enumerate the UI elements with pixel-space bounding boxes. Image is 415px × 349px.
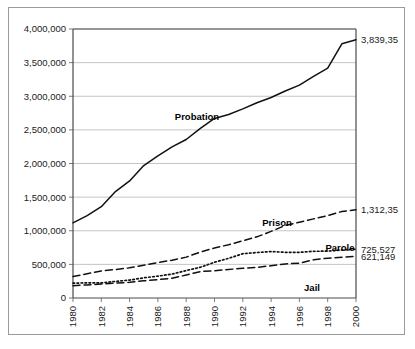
- y-axis-tick-label: 500,000: [32, 259, 66, 270]
- line-chart-svg: 0500,0001,000,0001,500,0002,000,0002,500…: [9, 8, 406, 336]
- x-axis-tick-label: 1996: [294, 306, 305, 327]
- y-axis-tick-label: 1,000,000: [24, 225, 66, 236]
- x-axis-tick-label: 1980: [67, 306, 78, 327]
- series-line-probation: [73, 40, 356, 223]
- x-axis-tick-label: 1984: [124, 306, 135, 327]
- series-line-prison: [73, 210, 356, 277]
- y-axis-tick-label: 2,500,000: [24, 124, 66, 135]
- series-end-value-prison: 1,312,35: [361, 204, 398, 215]
- y-axis-tick-label: 4,000,000: [24, 23, 66, 34]
- series-label-parole: Parole: [325, 242, 354, 253]
- series-label-probation: Probation: [175, 111, 220, 122]
- x-axis-tick-label: 1982: [96, 306, 107, 327]
- x-axis-tick-label: 2000: [350, 306, 361, 327]
- x-axis-tick-label: 1992: [237, 306, 248, 327]
- series-end-value-probation: 3,839,35: [361, 34, 398, 45]
- y-axis-tick-label: 3,000,000: [24, 91, 66, 102]
- y-axis-tick-label: 1,500,000: [24, 192, 66, 203]
- y-axis-tick-label: 0: [61, 292, 66, 303]
- x-axis-tick-label: 1994: [266, 306, 277, 327]
- chart-plot-area: 0500,0001,000,0001,500,0002,000,0002,500…: [9, 8, 406, 336]
- y-axis-tick-label: 2,000,000: [24, 158, 66, 169]
- series-label-prison: Prison: [262, 217, 292, 228]
- series-line-parole: [73, 249, 356, 283]
- x-axis-tick-label: 1986: [152, 306, 163, 327]
- series-end-value-jail: 621,149: [361, 251, 395, 262]
- x-axis-tick-label: 1990: [209, 306, 220, 327]
- series-label-jail: Jail: [304, 282, 320, 293]
- y-axis-tick-label: 3,500,000: [24, 57, 66, 68]
- chart-figure: 0500,0001,000,0001,500,0002,000,0002,500…: [8, 7, 405, 335]
- x-axis-tick-label: 1998: [322, 306, 333, 327]
- x-axis-tick-label: 1988: [181, 306, 192, 327]
